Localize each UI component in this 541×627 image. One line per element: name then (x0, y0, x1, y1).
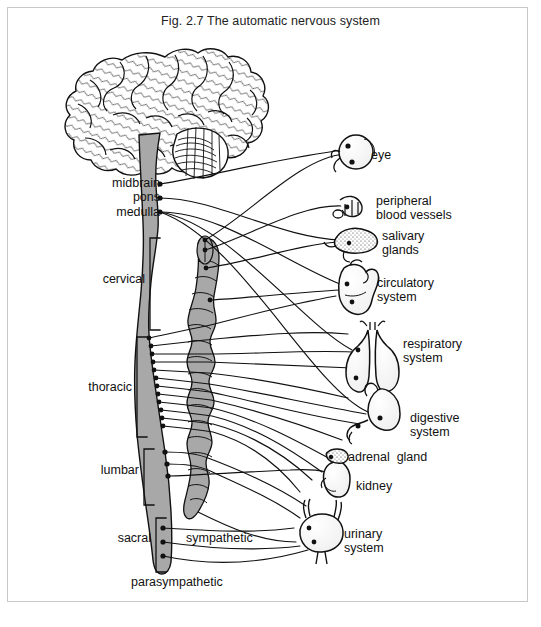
fiber-chain-salivary (206, 242, 340, 268)
label-thoracic: thoracic (0, 380, 132, 395)
label-sympathetic: sympathetic (186, 531, 253, 546)
eye-illustration (331, 135, 374, 172)
salivary-glands-illustration (324, 228, 377, 262)
label-sacral: sacral (0, 531, 151, 546)
label-salivary-glands-line1: salivary (382, 229, 424, 244)
bladder-illustration (300, 499, 343, 564)
label-cervical: cervical (0, 272, 145, 287)
label-respiratory-system-line2: system (403, 351, 443, 366)
figure-container: Fig. 2.7 The automatic nervous system (0, 0, 541, 627)
label-pons: pons (0, 190, 160, 205)
fiber-medulla-heart (160, 212, 340, 284)
label-urinary-system-line2: system (344, 541, 384, 556)
label-peripheral-blood-vessels-line1: peripheral (376, 194, 432, 209)
label-circulatory-system-line2: system (377, 290, 417, 305)
label-lumbar: lumbar (0, 463, 139, 478)
blood-vessels-illustration (333, 196, 362, 218)
sympathetic-chain (184, 236, 219, 519)
lungs-illustration (346, 321, 399, 392)
stomach-illustration (347, 383, 400, 444)
label-urinary-system-line1: urinary (344, 527, 382, 542)
fiber-sacral-bladder-3 (163, 550, 308, 562)
brain-illustration (65, 49, 268, 179)
fiber-pons-salivary (160, 198, 341, 240)
label-midbrain: midbrain (0, 176, 160, 191)
label-adrenal-gland: adrenal gland (348, 450, 427, 465)
label-respiratory-system-line1: respiratory (403, 337, 462, 352)
label-digestive-system-line1: digestive (410, 411, 459, 426)
label-digestive-system-line2: system (410, 425, 450, 440)
label-salivary-glands-line2: glands (382, 243, 419, 258)
label-circulatory-system-line1: circulatory (377, 276, 434, 291)
label-peripheral-blood-vessels-line2: blood vessels (376, 208, 452, 223)
heart-illustration (339, 260, 379, 315)
label-medulla: medulla (0, 205, 160, 220)
label-kidney: kidney (356, 479, 392, 494)
label-eye: eye (371, 148, 391, 163)
label-parasympathetic: parasympathetic (131, 575, 223, 590)
